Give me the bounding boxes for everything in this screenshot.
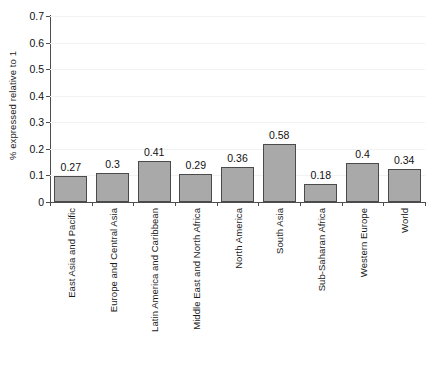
x-axis-tick-mark xyxy=(50,202,51,206)
bar[interactable] xyxy=(263,144,296,202)
gridline xyxy=(50,96,425,97)
y-axis-tick-mark xyxy=(46,69,50,70)
y-axis-tick-mark xyxy=(46,175,50,176)
plot-area: 00.10.20.30.40.50.60.7 0.270.30.410.290.… xyxy=(50,16,425,202)
bar-value-label: 0.41 xyxy=(144,146,164,158)
bar[interactable] xyxy=(304,184,337,202)
bar-value-label: 0.36 xyxy=(227,152,247,164)
gridline xyxy=(50,43,425,44)
y-axis-tick-label: 0.3 xyxy=(29,116,44,128)
x-axis-line xyxy=(50,202,426,203)
bar[interactable] xyxy=(138,161,171,202)
y-axis-tick-label: 0.5 xyxy=(29,63,44,75)
x-axis-tick-mark xyxy=(383,202,384,206)
x-axis-tick-mark xyxy=(133,202,134,206)
x-axis-tick-label: Middle East and North Africa xyxy=(190,208,201,330)
bar[interactable] xyxy=(346,163,379,202)
x-axis-tick-mark xyxy=(342,202,343,206)
x-axis-tick-label: North America xyxy=(232,208,243,269)
bar-value-label: 0.4 xyxy=(355,148,370,160)
x-axis-tick-mark xyxy=(425,202,426,206)
bar-chart-figure: % expressed relative to 1 00.10.20.30.40… xyxy=(0,0,439,365)
y-axis-tick-label: 0.4 xyxy=(29,90,44,102)
bar-value-label: 0.58 xyxy=(269,129,289,141)
x-axis-tick-label: South Asia xyxy=(274,208,285,254)
y-axis-title: % expressed relative to 1 xyxy=(8,50,19,159)
x-axis-tick-label: World xyxy=(399,208,410,233)
x-axis-tick-label: East Asia and Pacific xyxy=(65,208,76,298)
y-axis-tick-label: 0.2 xyxy=(29,143,44,155)
x-axis-tick-label: Latin America and Caribbean xyxy=(149,208,160,332)
x-axis-tick-mark xyxy=(300,202,301,206)
bar-value-label: 0.29 xyxy=(186,159,206,171)
y-axis-tick-label: 0.7 xyxy=(29,10,44,22)
x-axis-tick-mark xyxy=(258,202,259,206)
bar[interactable] xyxy=(388,169,421,202)
y-axis-tick-label: 0.1 xyxy=(29,169,44,181)
bar-value-label: 0.18 xyxy=(311,169,331,181)
x-axis-tick-label: Europe and Central Asia xyxy=(107,208,118,312)
gridline xyxy=(50,122,425,123)
y-axis-tick-mark xyxy=(46,43,50,44)
y-axis-tick-mark xyxy=(46,149,50,150)
gridline xyxy=(50,69,425,70)
y-axis-tick-label: 0 xyxy=(38,196,44,208)
bar-value-label: 0.3 xyxy=(105,158,120,170)
bar[interactable] xyxy=(179,174,212,202)
y-axis-title-container: % expressed relative to 1 xyxy=(0,0,26,210)
bar[interactable] xyxy=(96,173,129,202)
y-axis-tick-mark xyxy=(46,122,50,123)
x-axis-tick-mark xyxy=(217,202,218,206)
bar-value-label: 0.34 xyxy=(394,154,414,166)
x-axis-tick-label: Sub-Saharan Africa xyxy=(315,208,326,291)
bar-value-label: 0.27 xyxy=(61,161,81,173)
x-axis-tick-mark xyxy=(175,202,176,206)
y-axis-tick-mark xyxy=(46,96,50,97)
gridline xyxy=(50,16,425,17)
y-axis-tick-label: 0.6 xyxy=(29,37,44,49)
bar[interactable] xyxy=(221,167,254,202)
x-axis-tick-mark xyxy=(92,202,93,206)
x-axis-tick-label: Western Europe xyxy=(357,208,368,277)
y-axis-tick-mark xyxy=(46,16,50,17)
bar[interactable] xyxy=(54,176,87,202)
